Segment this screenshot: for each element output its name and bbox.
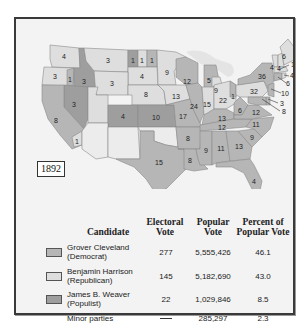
label-ca-split: 1 — [75, 138, 79, 145]
label-nd-c: 1 — [150, 57, 154, 64]
candidate-name-text: Benjamin Harrison — [67, 267, 133, 276]
label-wa: 4 — [62, 53, 66, 60]
territory-az — [82, 123, 108, 159]
label-wi: 12 — [183, 78, 191, 85]
label-ri: 4 — [290, 72, 293, 79]
header-popular: Popular Vote — [188, 217, 238, 237]
label-ms: 9 — [204, 147, 208, 154]
label-nc: 11 — [252, 121, 259, 128]
percent-vote: 46.1 — [236, 248, 290, 257]
label-or: 3 — [53, 73, 57, 80]
label-nh: 4 — [277, 65, 281, 72]
label-va: 12 — [252, 109, 260, 116]
label-nv: 3 — [72, 101, 76, 108]
table-row-minor-parties: Minor parties 285,297 2.3 — [16, 312, 293, 325]
label-ne: 8 — [144, 91, 148, 98]
label-tn: 12 — [218, 124, 226, 131]
candidate-party-text: (Republican) — [67, 276, 133, 285]
header-percent-line1: Percent of — [234, 217, 292, 227]
label-sd: 4 — [140, 73, 144, 80]
table-row-cleveland: Grover Cleveland (Democrat) 277 5,555,42… — [16, 242, 293, 264]
header-popular-line1: Popular — [188, 217, 238, 227]
table-row-harrison: Benjamin Harrison (Republican) 145 5,182… — [16, 266, 293, 288]
candidate-name-text: Minor parties — [67, 314, 113, 323]
table-row-weaver: James B. Weaver (Populist) 22 1,029,846 … — [16, 289, 293, 311]
label-or-split: 1 — [68, 76, 72, 83]
label-il: 24 — [190, 103, 198, 110]
candidate-name: Benjamin Harrison (Republican) — [67, 267, 133, 285]
header-percent: Percent of Popular Vote — [234, 217, 292, 237]
label-me: 6 — [282, 53, 286, 60]
label-ct: 6 — [286, 80, 290, 87]
popular-vote: 1,029,846 — [188, 295, 238, 304]
label-wv: 6 — [238, 107, 242, 114]
election-year-label: 1892 — [37, 161, 65, 177]
label-ks: 10 — [152, 114, 160, 121]
percent-vote: 8.5 — [236, 295, 290, 304]
label-vt: 4 — [270, 64, 274, 71]
header-electoral-line1: Electoral — [141, 217, 189, 227]
label-la: 8 — [188, 157, 192, 164]
popular-vote: 5,182,690 — [188, 272, 238, 281]
label-tx: 15 — [155, 159, 163, 166]
header-percent-line2: Popular Vote — [234, 227, 292, 237]
election-map-panel: 4 3 1 3 3 1 1 1 9 3 4 3 8 1 4 8 10 13 12… — [14, 17, 295, 315]
header-popular-line2: Vote — [188, 227, 238, 237]
popular-vote: 5,555,426 — [188, 248, 238, 257]
electoral-vote-dash — [146, 314, 186, 323]
label-pa: 32 — [250, 88, 258, 95]
label-oh: 22 — [219, 97, 227, 104]
label-ga: 13 — [235, 143, 243, 150]
label-fl: 4 — [252, 178, 256, 185]
candidate-name: Grover Cleveland (Democrat) — [67, 243, 129, 261]
candidate-name: James B. Weaver (Populist) — [67, 290, 130, 308]
electoral-vote: 22 — [146, 295, 186, 304]
label-mo: 17 — [179, 113, 187, 120]
label-nj: 10 — [281, 90, 289, 97]
label-in: 15 — [203, 101, 211, 108]
dash-glyph — [160, 318, 172, 319]
candidate-name-text: Grover Cleveland — [67, 243, 129, 252]
electoral-vote: 277 — [146, 248, 186, 257]
electoral-vote: 145 — [146, 272, 186, 281]
label-oh-split: 1 — [231, 93, 235, 100]
label-md: 8 — [282, 108, 286, 115]
header-candidate: Candidate — [78, 227, 138, 237]
candidate-name-text: James B. Weaver — [67, 290, 130, 299]
label-sc: 9 — [250, 134, 254, 141]
candidate-party-text: (Democrat) — [67, 252, 129, 261]
popular-vote: 285,297 — [188, 314, 238, 323]
legend-swatch-democrat — [46, 248, 62, 257]
label-mt: 3 — [106, 57, 110, 64]
label-mn: 9 — [165, 69, 169, 76]
label-nd-b: 1 — [140, 57, 144, 64]
label-ky: 13 — [218, 115, 226, 122]
label-ny: 36 — [258, 73, 266, 80]
label-wy: 3 — [110, 80, 114, 87]
header-electoral-line2: Vote — [141, 227, 189, 237]
label-mi: 5 — [207, 77, 211, 84]
percent-vote: 43.0 — [236, 272, 290, 281]
label-ma: 15 — [291, 61, 293, 68]
label-mi-split: 9 — [214, 87, 218, 94]
label-ca: 8 — [54, 117, 58, 124]
legend-swatch-republican — [46, 272, 62, 281]
label-id: 3 — [82, 78, 86, 85]
label-de: 3 — [280, 100, 284, 107]
label-ar: 8 — [186, 135, 190, 142]
percent-vote: 2.3 — [236, 314, 290, 323]
header-electoral: Electoral Vote — [141, 217, 189, 237]
state-ri — [282, 73, 286, 79]
label-al: 11 — [217, 145, 224, 152]
label-nd-a: 1 — [131, 57, 135, 64]
label-co: 4 — [121, 113, 125, 120]
territory-nm — [108, 127, 140, 159]
label-ia: 13 — [172, 93, 180, 100]
candidate-party-text: (Populist) — [67, 299, 130, 308]
legend-swatch-populist — [46, 295, 62, 304]
state-md — [248, 97, 266, 105]
